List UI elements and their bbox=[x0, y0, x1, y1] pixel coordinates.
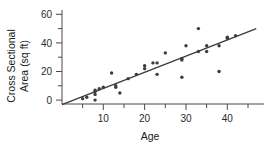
y-axis-title: Cross Sectional Area (sq ft) bbox=[5, 29, 30, 103]
data-point bbox=[114, 86, 117, 89]
data-point bbox=[135, 73, 138, 76]
x-axis-title: Age bbox=[141, 130, 160, 142]
y-tick-label-40: 40 bbox=[41, 38, 53, 49]
data-point bbox=[93, 93, 96, 96]
data-point bbox=[85, 96, 88, 99]
data-point bbox=[234, 34, 237, 37]
y-tick-label-20: 20 bbox=[41, 66, 53, 77]
data-point bbox=[151, 61, 154, 64]
data-point bbox=[217, 70, 220, 73]
data-point bbox=[155, 73, 158, 76]
data-point bbox=[93, 98, 96, 101]
x-tick-label-20: 20 bbox=[139, 113, 151, 124]
y-axis-ticks: 60 40 20 0 bbox=[41, 9, 62, 106]
data-point bbox=[226, 37, 229, 40]
data-point bbox=[143, 67, 146, 70]
x-axis-ticks: 10 20 30 40 bbox=[83, 104, 248, 124]
data-point bbox=[81, 97, 84, 100]
data-point bbox=[197, 27, 200, 30]
data-point bbox=[197, 50, 200, 53]
data-point bbox=[205, 44, 208, 47]
x-tick-label-10: 10 bbox=[98, 113, 110, 124]
y-tick-label-60: 60 bbox=[41, 9, 53, 20]
data-point bbox=[110, 71, 113, 74]
data-point bbox=[98, 87, 101, 90]
scatter-chart: Cross Sectional Area (sq ft) 60 40 20 0 bbox=[0, 0, 268, 151]
y-axis-title-line2: Area (sq ft) bbox=[18, 40, 30, 92]
data-point bbox=[102, 86, 105, 89]
data-point bbox=[155, 61, 158, 64]
data-point bbox=[180, 76, 183, 79]
data-point bbox=[118, 91, 121, 94]
scatter-points bbox=[81, 27, 237, 102]
data-point bbox=[164, 51, 167, 54]
data-point bbox=[217, 44, 220, 47]
x-tick-label-40: 40 bbox=[222, 113, 234, 124]
data-point bbox=[126, 77, 129, 80]
data-point bbox=[180, 58, 183, 61]
x-tick-label-30: 30 bbox=[180, 113, 192, 124]
y-axis-title-line1: Cross Sectional bbox=[5, 29, 17, 103]
chart-canvas: Cross Sectional Area (sq ft) 60 40 20 0 bbox=[0, 0, 268, 151]
y-tick-label-0: 0 bbox=[46, 95, 52, 106]
data-point bbox=[205, 50, 208, 53]
data-point bbox=[184, 44, 187, 47]
